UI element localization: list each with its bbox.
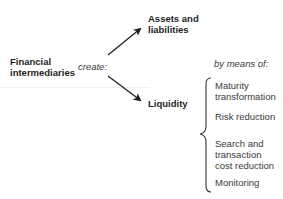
means-label: by means of: [214,58,268,69]
means-line: Search and [215,138,274,149]
means-item-search-transaction: Search and transaction cost reduction [215,138,274,171]
arrow-to-liquidity-icon [108,76,140,100]
means-line: transaction [215,149,274,160]
source-line-2: intermediaries [10,67,75,78]
curly-brace-icon [200,78,211,192]
output-liquidity: Liquidity [148,98,188,109]
arrow-to-assets-icon [108,29,140,55]
means-item-maturity: Maturity transformation [215,80,276,102]
verb-label: create: [78,61,107,72]
source-label: Financial intermediaries [10,56,75,78]
means-line: cost reduction [215,160,274,171]
means-line: transformation [215,91,276,102]
means-line: Maturity [215,80,276,91]
output-line-1: Assets and [148,13,199,24]
means-item-monitoring: Monitoring [215,177,259,188]
source-line-1: Financial [10,56,75,67]
means-item-risk: Risk reduction [215,111,275,122]
output-line-2: liabilities [148,24,199,35]
output-assets-liabilities: Assets and liabilities [148,13,199,35]
